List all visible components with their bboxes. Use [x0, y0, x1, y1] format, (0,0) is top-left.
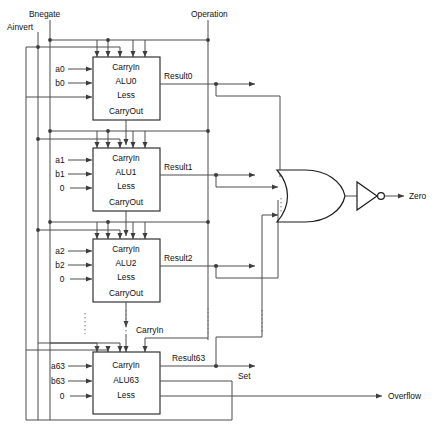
alu1-port-less: Less: [117, 181, 135, 191]
alu-diagram-figure: Bnegate Ainvert Operation CarryIn ALU0 L…: [0, 0, 447, 437]
junction-dot: [206, 220, 210, 224]
junction-dot: [36, 137, 40, 141]
alu1-port-carryin: CarryIn: [112, 153, 140, 163]
alu1-result-label: Result1: [164, 162, 193, 172]
alu63-input-a: a63: [51, 361, 65, 371]
alu63-result-label: Result63: [172, 353, 205, 363]
alu2-result-label: Result2: [164, 253, 193, 263]
alu1-input-a: a1: [55, 155, 65, 165]
alu2-group: CarryIn ALU2 Less CarryOut a2 b2 0 Resul…: [36, 200, 278, 327]
alu0-port-carryout: CarryOut: [109, 106, 144, 116]
alu2-input-b: b2: [55, 260, 65, 270]
alu0-port-less: Less: [117, 90, 135, 100]
junction-dot: [36, 45, 40, 49]
junction-dot: [106, 38, 110, 42]
alu2-input-a: a2: [55, 246, 65, 256]
alu2-port-carryout: CarryOut: [109, 288, 144, 298]
junction-dot: [106, 129, 110, 133]
alu2-input-less: 0: [60, 274, 65, 284]
or-gate: [277, 170, 345, 222]
alu1-port-carryout: CarryOut: [109, 197, 144, 207]
alu1-input-less: 0: [60, 183, 65, 193]
alu63-port-carryin: CarryIn: [112, 360, 140, 370]
alu-diagram-canvas: Bnegate Ainvert Operation CarryIn ALU0 L…: [0, 0, 447, 437]
alu0-input-b: b0: [55, 78, 65, 88]
junction-dot: [48, 38, 52, 42]
alu0-name: ALU0: [116, 76, 137, 86]
label-carryin-bus: CarryIn: [136, 325, 164, 335]
label-zero: Zero: [409, 191, 427, 201]
alu63-input-b: b63: [51, 376, 65, 386]
label-set: Set: [238, 371, 251, 381]
label-ainvert: Ainvert: [7, 22, 34, 32]
alu2-port-less: Less: [117, 272, 135, 282]
junction-dot: [48, 129, 52, 133]
label-bnegate: Bnegate: [29, 9, 61, 19]
label-operation: Operation: [191, 9, 228, 19]
alu2-name: ALU2: [116, 258, 137, 268]
alu63-name: ALU63: [113, 375, 139, 385]
junction-dot: [206, 38, 210, 42]
inverter-not-gate: [345, 182, 404, 210]
junction-dot: [48, 220, 52, 224]
alu0-result-label: Result0: [164, 71, 193, 81]
label-overflow: Overflow: [388, 391, 422, 401]
junction-dot: [36, 228, 40, 232]
alu1-group: CarryIn ALU1 Less CarryOut a1 b1 0 Resul…: [36, 129, 278, 236]
alu0-port-carryin: CarryIn: [112, 62, 140, 72]
alu1-input-b: b1: [55, 169, 65, 179]
alu63-port-less: Less: [117, 390, 135, 400]
junction-dot: [206, 129, 210, 133]
alu0-input-a: a0: [55, 64, 65, 74]
alu63-input-less: 0: [60, 391, 65, 401]
junction-dot: [106, 220, 110, 224]
alu1-name: ALU1: [116, 167, 137, 177]
alu2-port-carryin: CarryIn: [112, 244, 140, 254]
